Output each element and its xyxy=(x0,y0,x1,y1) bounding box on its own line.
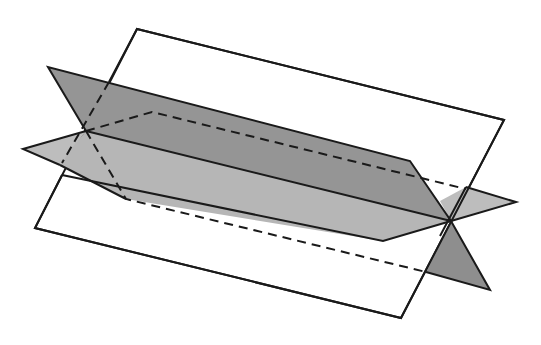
dark-plane-lower xyxy=(426,221,490,290)
three-planes-diagram xyxy=(0,0,541,345)
